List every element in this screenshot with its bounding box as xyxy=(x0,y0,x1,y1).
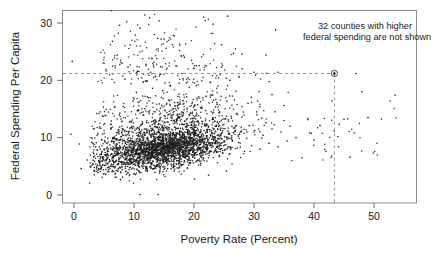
scatter-point xyxy=(176,123,178,125)
scatter-point xyxy=(225,88,227,90)
scatter-point xyxy=(132,152,134,154)
scatter-point xyxy=(229,146,231,148)
scatter-point xyxy=(173,170,175,172)
scatter-point xyxy=(120,139,122,141)
scatter-point xyxy=(137,137,139,139)
scatter-point xyxy=(162,145,164,147)
scatter-point xyxy=(117,170,119,172)
scatter-point xyxy=(198,97,200,99)
scatter-point xyxy=(162,130,164,132)
scatter-point xyxy=(203,16,205,18)
scatter-point xyxy=(141,156,143,158)
scatter-point xyxy=(95,163,97,165)
scatter-point xyxy=(164,155,166,157)
scatter-point xyxy=(169,85,171,87)
scatter-point xyxy=(160,117,162,119)
scatter-point xyxy=(164,118,166,120)
scatter-point xyxy=(169,131,171,133)
scatter-point xyxy=(167,117,169,119)
scatter-point xyxy=(289,125,291,127)
scatter-point xyxy=(165,135,167,137)
scatter-point xyxy=(154,119,156,121)
scatter-point xyxy=(192,125,194,127)
scatter-point xyxy=(393,108,395,110)
scatter-point xyxy=(97,170,99,172)
scatter-point xyxy=(94,170,96,172)
scatter-point xyxy=(120,179,122,181)
scatter-point xyxy=(186,107,188,109)
scatter-point xyxy=(130,151,132,153)
scatter-point xyxy=(338,146,340,148)
scatter-point xyxy=(163,174,165,176)
scatter-point xyxy=(283,120,285,122)
scatter-point xyxy=(152,143,154,145)
scatter-point xyxy=(92,160,94,162)
scatter-point xyxy=(151,156,153,158)
scatter-point xyxy=(188,164,190,166)
scatter-point xyxy=(170,138,172,140)
scatter-point xyxy=(160,166,162,168)
scatter-point xyxy=(117,95,119,97)
scatter-point xyxy=(164,125,166,127)
scatter-point xyxy=(221,139,223,141)
scatter-point xyxy=(194,148,196,150)
scatter-point xyxy=(133,140,135,142)
scatter-point xyxy=(175,148,177,150)
scatter-point xyxy=(151,121,153,123)
scatter-point xyxy=(206,146,208,148)
scatter-point xyxy=(145,147,147,149)
scatter-point xyxy=(394,94,396,96)
scatter-point xyxy=(207,144,209,146)
scatter-point xyxy=(93,153,95,155)
scatter-point xyxy=(193,135,195,137)
scatter-point xyxy=(175,129,177,131)
scatter-point xyxy=(182,133,184,135)
scatter-point xyxy=(139,155,141,157)
scatter-point xyxy=(127,131,129,133)
scatter-point xyxy=(156,58,158,60)
scatter-point xyxy=(168,150,170,152)
scatter-point xyxy=(132,135,134,137)
scatter-point xyxy=(234,99,236,101)
scatter-point xyxy=(120,61,122,63)
scatter-point xyxy=(113,141,115,143)
scatter-point xyxy=(231,117,233,119)
scatter-point xyxy=(131,154,133,156)
scatter-point xyxy=(104,111,106,113)
scatter-point xyxy=(159,153,161,155)
scatter-point xyxy=(136,160,138,162)
scatter-point xyxy=(98,146,100,148)
scatter-point xyxy=(174,102,176,104)
scatter-point xyxy=(160,140,162,142)
scatter-point xyxy=(221,118,223,120)
scatter-point xyxy=(322,159,324,161)
scatter-point xyxy=(186,78,188,80)
x-tick-label: 50 xyxy=(368,210,380,222)
scatter-point xyxy=(112,159,114,161)
scatter-point xyxy=(156,157,158,159)
scatter-point xyxy=(201,80,203,82)
scatter-point xyxy=(97,81,99,83)
scatter-point xyxy=(184,150,186,152)
scatter-point xyxy=(142,161,144,163)
scatter-point xyxy=(191,103,193,105)
scatter-point xyxy=(212,127,214,129)
scatter-point xyxy=(216,87,218,89)
scatter-point xyxy=(114,155,116,157)
scatter-point xyxy=(122,176,124,178)
scatter-point xyxy=(167,136,169,138)
scatter-point xyxy=(222,128,224,130)
scatter-point xyxy=(229,153,231,155)
scatter-point xyxy=(130,142,132,144)
scatter-point xyxy=(216,75,218,77)
scatter-point xyxy=(168,62,170,64)
scatter-point xyxy=(179,103,181,105)
scatter-point xyxy=(102,133,104,135)
x-tick-label: 20 xyxy=(188,210,200,222)
scatter-point xyxy=(182,137,184,139)
scatter-point xyxy=(192,160,194,162)
scatter-point xyxy=(144,149,146,151)
scatter-point xyxy=(271,94,273,96)
scatter-point xyxy=(209,120,211,122)
scatter-point xyxy=(215,106,217,108)
